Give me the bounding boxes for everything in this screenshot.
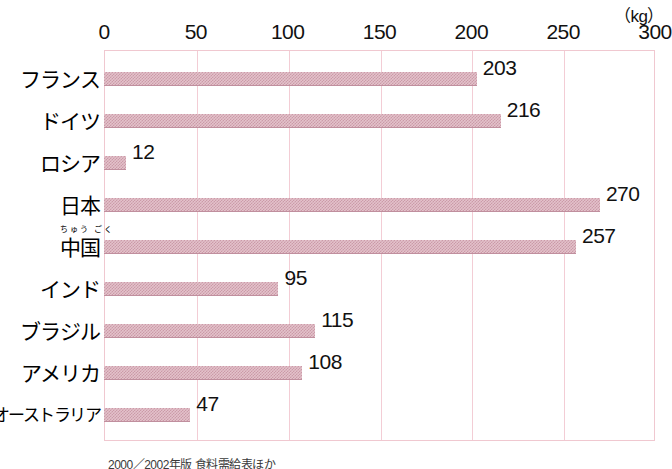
bar [104,366,302,380]
x-tick-label: 100 [271,20,305,44]
x-tick-label: 150 [363,20,397,44]
bar [104,408,190,422]
source-note: 2000／2002年版 食料需給表ほか [108,455,668,469]
category-label: インド [0,279,104,300]
category-label: ドイツ [0,111,104,132]
bar-row: ドイツ216 [0,100,672,142]
category-label: アメリカ [0,363,104,384]
bar-rows: フランス203ドイツ216ロシア12日本270ちゅう ごく中国257インド95ブ… [0,50,672,441]
x-tick-label: 200 [455,20,489,44]
bar [104,72,477,86]
category-label: ブラジル [0,321,104,342]
bar-row: インド95 [0,268,672,310]
bar-value-label: 216 [507,98,541,122]
bar-row: 日本270 [0,184,672,226]
bar-row: ブラジル115 [0,310,672,352]
bar-value-label: 203 [483,56,517,80]
x-tick-label: 300 [638,20,672,44]
bar [104,324,315,338]
bar-value-label: 257 [582,224,616,248]
bar-value-label: 12 [132,140,154,164]
x-tick-label: 0 [98,20,109,44]
bar-row: アメリカ108 [0,352,672,394]
category-label: オーストラリア [0,407,104,424]
bar [104,114,501,128]
x-axis-tick-labels: 050100150200250300 [0,20,672,46]
x-tick-label: 50 [185,20,207,44]
bar [104,240,576,254]
bar-value-label: 95 [284,266,306,290]
bar [104,156,126,170]
category-label: 日本 [0,195,104,216]
furigana-text: ちゅう ごく [60,226,100,234]
bar-value-label: 47 [196,392,218,416]
bar-value-label: 115 [321,308,353,332]
bar-row: フランス203 [0,58,672,100]
bar-row: ロシア12 [0,142,672,184]
bar-row: オーストラリア47 [0,394,672,436]
bar-value-label: 270 [606,182,640,206]
category-label: ちゅう ごく中国 [0,237,104,258]
category-label: ロシア [0,153,104,174]
bar-chart: （kg） 050100150200250300 フランス203ドイツ216ロシア… [0,0,672,469]
x-tick-label: 250 [546,20,580,44]
category-label-text: ちゅう ごく中国 [60,237,100,258]
bar-row: ちゅう ごく中国257 [0,226,672,268]
bar [104,198,600,212]
bar [104,282,278,296]
category-label: フランス [0,69,104,90]
bar-value-label: 108 [308,350,342,374]
